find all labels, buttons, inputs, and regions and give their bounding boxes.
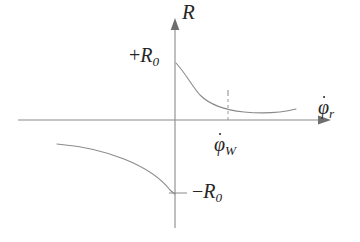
r-symbol-negative: R xyxy=(203,180,215,202)
minus-sign: − xyxy=(192,180,203,202)
label-phi-w: φW xyxy=(214,134,236,154)
curve-positive-branch xyxy=(176,63,296,113)
phi-subscript-w: W xyxy=(225,143,236,158)
curve-negative-branch xyxy=(57,144,175,194)
phi-glyph-w: φ xyxy=(214,134,225,154)
label-plus-r0: +R0 xyxy=(129,45,159,65)
figure-container: R +R0 −R0 φr φW xyxy=(0,0,360,242)
phi-glyph-x-axis: φ xyxy=(318,97,329,117)
r-subscript-negative: 0 xyxy=(216,190,223,205)
r-symbol-positive: R xyxy=(140,44,152,66)
x-axis-label: φr xyxy=(318,97,334,117)
label-minus-r0: −R0 xyxy=(192,181,222,201)
y-axis-arrowhead xyxy=(171,18,180,30)
plot-canvas xyxy=(0,0,360,242)
phi-letter-x-axis: φ xyxy=(318,96,329,118)
y-axis-group xyxy=(171,18,180,228)
phi-letter-w: φ xyxy=(214,133,225,155)
r-subscript-positive: 0 xyxy=(153,54,160,69)
plus-sign: + xyxy=(129,44,140,66)
y-axis-label: R xyxy=(182,2,195,23)
phi-subscript-r: r xyxy=(329,106,334,121)
